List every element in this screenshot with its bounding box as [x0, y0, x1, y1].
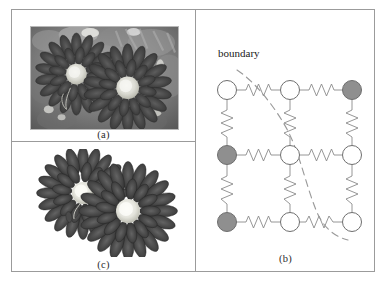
panel-a-caption: (a) [11, 129, 196, 140]
node-open [281, 146, 300, 165]
figure-root: (a) [0, 0, 388, 288]
node-open [343, 146, 362, 165]
spring-link [300, 84, 343, 96]
node-shaded [218, 146, 237, 165]
panel-b-caption: (b) [196, 253, 375, 264]
spring-link [346, 165, 358, 213]
flower-photo-a-graphic [31, 27, 178, 129]
spring-link [346, 100, 358, 146]
panel-c-caption: (c) [11, 259, 196, 270]
spring-link [221, 165, 233, 213]
node-shaded [343, 81, 362, 100]
panel-c: (c) [11, 142, 196, 272]
flower-photograph-original [30, 26, 179, 130]
flower-photograph-segmented [25, 149, 183, 257]
node-open [281, 81, 300, 100]
spring-link [300, 149, 343, 161]
spring-link [237, 149, 281, 161]
spring-link [300, 216, 343, 228]
node-open [218, 81, 237, 100]
flower-photo-c-graphic [25, 149, 183, 257]
spring-link [237, 216, 281, 228]
spring-link [237, 84, 281, 96]
panel-a: (a) [11, 9, 196, 141]
spring-link [284, 100, 296, 146]
spring-link [221, 100, 233, 146]
spring-link [284, 165, 296, 213]
panel-b: boundary [196, 9, 375, 272]
node-open [281, 213, 300, 232]
grid-nodes [218, 81, 362, 232]
spring-grid-diagram [196, 9, 375, 272]
node-open [343, 213, 362, 232]
node-shaded [218, 213, 237, 232]
